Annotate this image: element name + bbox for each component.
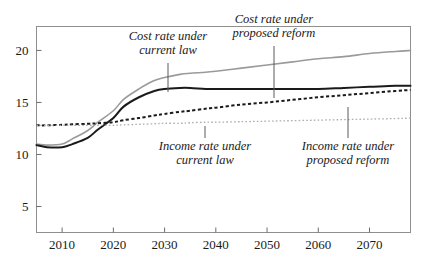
y-tick-label: 10 (16, 147, 29, 162)
annotation-label: Cost rate undercurrent law (129, 29, 208, 57)
chart-figure: 5101520 2010202020302040205020602070 Cos… (0, 0, 427, 273)
x-tick-label: 2030 (152, 237, 178, 252)
y-tick-label: 15 (16, 95, 29, 110)
annotation-label: Cost rate underproposed reform (232, 12, 316, 40)
annotation-label: Income rate underproposed reform (301, 139, 394, 167)
x-tick-label: 2040 (203, 237, 229, 252)
x-tick-label: 2060 (305, 237, 331, 252)
x-tick-label: 2010 (49, 237, 75, 252)
x-tick-label: 2020 (100, 237, 126, 252)
y-tick-label: 20 (16, 43, 29, 58)
chart-svg: 5101520 2010202020302040205020602070 Cos… (0, 0, 427, 273)
x-tick-label: 2050 (254, 237, 280, 252)
x-tick-label: 2070 (357, 237, 383, 252)
y-tick-label: 5 (22, 199, 29, 214)
